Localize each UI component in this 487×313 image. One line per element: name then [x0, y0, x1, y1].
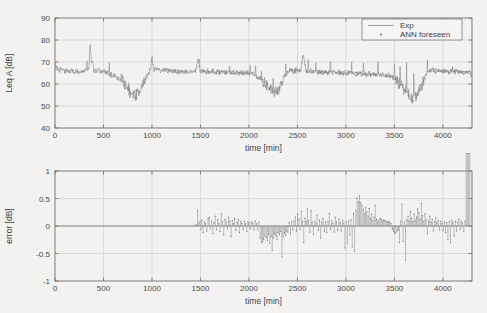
y-tick-label: -0.5 — [36, 250, 50, 259]
y-tick-label: 1 — [46, 167, 51, 176]
x-tick-label: 500 — [97, 284, 111, 293]
x-axis-label: time [min] — [245, 296, 282, 306]
x-tick-label: 2500 — [289, 131, 307, 140]
legend-point-swatch — [380, 34, 382, 36]
error-chart-panel: 05001000150020002500300035004000-1-0.500… — [0, 153, 487, 313]
x-tick-label: 2000 — [240, 284, 258, 293]
y-tick-label: 70 — [41, 58, 50, 67]
y-tick-label: -1 — [43, 277, 51, 286]
x-tick-label: 2500 — [289, 284, 307, 293]
y-tick-label: 40 — [41, 124, 50, 133]
y-tick-label: 90 — [41, 14, 50, 23]
x-tick-label: 1500 — [192, 131, 210, 140]
y-tick-label: 60 — [41, 80, 50, 89]
error-chart-svg: 05001000150020002500300035004000-1-0.500… — [0, 153, 487, 313]
y-tick-label: 0 — [46, 222, 51, 231]
error-stems — [196, 153, 471, 261]
figure-container: 0500100015002000250030003500400040506070… — [0, 0, 487, 313]
x-tick-label: 1500 — [192, 284, 210, 293]
exp-data-line — [55, 44, 472, 103]
x-tick-label: 2000 — [240, 131, 258, 140]
legend-label-ann: ANN foreseen — [400, 30, 450, 39]
leq-chart-panel: 0500100015002000250030003500400040506070… — [0, 0, 487, 160]
x-axis-label: time [min] — [245, 143, 282, 153]
x-tick-label: 4000 — [434, 131, 452, 140]
y-tick-label: 0.5 — [39, 195, 51, 204]
leq-chart-svg: 0500100015002000250030003500400040506070… — [0, 0, 487, 160]
x-tick-label: 0 — [53, 284, 58, 293]
y-tick-label: 80 — [41, 36, 50, 45]
ann-foreseen-markers — [196, 57, 472, 101]
x-tick-label: 1000 — [143, 284, 161, 293]
x-tick-label: 3500 — [386, 131, 404, 140]
x-tick-label: 0 — [53, 131, 58, 140]
y-tick-label: 50 — [41, 102, 50, 111]
y-axis-label: Leq A [dB] — [4, 54, 14, 93]
x-tick-label: 1000 — [143, 131, 161, 140]
x-tick-label: 500 — [97, 131, 111, 140]
y-axis-label: error [dB] — [4, 208, 14, 243]
x-tick-label: 4000 — [434, 284, 452, 293]
legend-label-exp: Exp — [400, 21, 414, 30]
x-tick-label: 3000 — [337, 284, 355, 293]
x-tick-label: 3500 — [386, 284, 404, 293]
chart-legend: ExpANN foreseen — [362, 19, 462, 40]
x-axis-ticks: 05001000150020002500300035004000 — [53, 171, 453, 293]
x-tick-label: 3000 — [337, 131, 355, 140]
